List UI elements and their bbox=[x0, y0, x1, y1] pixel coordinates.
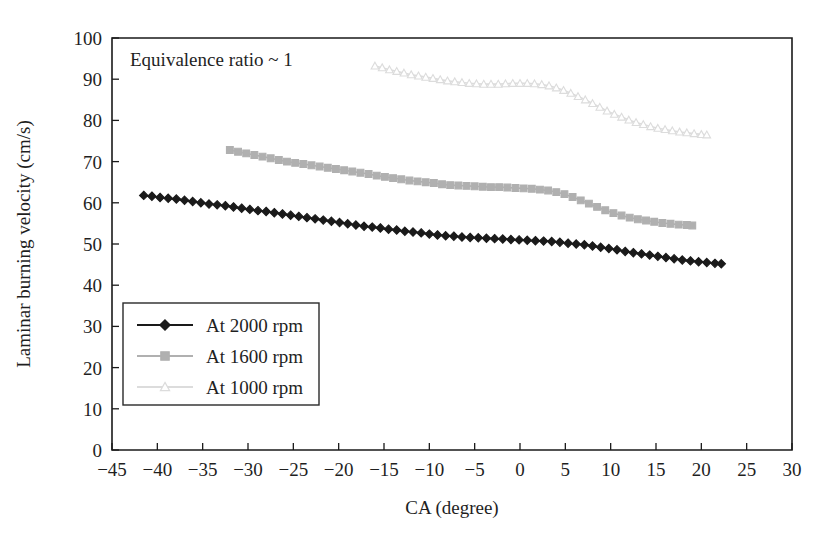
series-marker bbox=[300, 161, 307, 168]
series-marker bbox=[226, 147, 233, 154]
x-tick-label: 30 bbox=[783, 459, 802, 480]
series-marker bbox=[659, 220, 666, 227]
x-tick-label: −5 bbox=[465, 459, 485, 480]
y-tick-label: 0 bbox=[93, 440, 103, 461]
x-tick-label: 10 bbox=[601, 459, 620, 480]
series-marker bbox=[610, 210, 617, 217]
series-marker bbox=[553, 189, 560, 196]
series-marker bbox=[422, 179, 429, 186]
y-tick-label: 10 bbox=[83, 399, 102, 420]
series-marker bbox=[479, 183, 486, 190]
y-tick-label: 80 bbox=[83, 110, 102, 131]
x-tick-label: −25 bbox=[278, 459, 308, 480]
x-tick-label: −20 bbox=[324, 459, 354, 480]
legend-item-label: At 1000 rpm bbox=[206, 377, 303, 398]
equivalence-ratio-annotation: Equivalence ratio ~ 1 bbox=[130, 49, 293, 70]
y-tick-label: 40 bbox=[83, 275, 102, 296]
series-marker bbox=[349, 168, 356, 175]
series-marker bbox=[292, 159, 299, 166]
series-marker bbox=[488, 184, 495, 191]
series-marker bbox=[382, 173, 389, 180]
series-marker bbox=[586, 200, 593, 207]
series-marker bbox=[675, 221, 682, 228]
y-tick-label: 50 bbox=[83, 234, 102, 255]
y-tick-label: 30 bbox=[83, 316, 102, 337]
series-marker bbox=[643, 217, 650, 224]
chart-figure: −45−40−35−30−25−20−15−10−5051015202530 0… bbox=[0, 0, 840, 547]
series-marker bbox=[398, 176, 405, 183]
series-marker bbox=[651, 218, 658, 225]
x-tick-label: 0 bbox=[515, 459, 525, 480]
x-tick-label: −30 bbox=[233, 459, 263, 480]
y-tick-label: 100 bbox=[74, 28, 103, 49]
y-axis-title: Laminar burning velocity (cm/s) bbox=[13, 120, 35, 367]
x-tick-label: −35 bbox=[188, 459, 218, 480]
series-marker bbox=[512, 185, 519, 192]
series-marker bbox=[333, 166, 340, 173]
x-tick-label: −10 bbox=[414, 459, 444, 480]
x-tick-label: −45 bbox=[97, 459, 127, 480]
y-tick-label: 60 bbox=[83, 193, 102, 214]
series-marker bbox=[414, 178, 421, 185]
series-marker bbox=[545, 187, 552, 194]
series-marker bbox=[689, 222, 696, 229]
series-marker bbox=[365, 171, 372, 178]
series-marker bbox=[667, 220, 674, 227]
series-marker bbox=[626, 214, 633, 221]
series-marker bbox=[406, 177, 413, 184]
chart-canvas: −45−40−35−30−25−20−15−10−5051015202530 0… bbox=[0, 0, 840, 547]
series-marker bbox=[463, 183, 470, 190]
series-marker bbox=[618, 212, 625, 219]
series-marker bbox=[520, 185, 527, 192]
series-marker bbox=[471, 183, 478, 190]
x-tick-label: −40 bbox=[142, 459, 172, 480]
series-marker bbox=[577, 197, 584, 204]
series-marker bbox=[455, 182, 462, 189]
y-tick-label: 20 bbox=[83, 358, 102, 379]
series-marker bbox=[243, 150, 250, 157]
series-marker bbox=[267, 155, 274, 162]
series-marker bbox=[390, 175, 397, 182]
series-marker bbox=[308, 162, 315, 169]
x-axis-title: CA (degree) bbox=[405, 497, 498, 519]
series-marker bbox=[251, 152, 258, 159]
series-marker bbox=[235, 148, 242, 155]
x-tick-label: 20 bbox=[692, 459, 711, 480]
y-tick-label: 90 bbox=[83, 69, 102, 90]
legend-marker-swatch bbox=[161, 352, 169, 360]
chart-legend: At 2000 rpmAt 1600 rpmAt 1000 rpm bbox=[123, 303, 319, 405]
x-tick-label: −15 bbox=[369, 459, 399, 480]
x-tick-label: 15 bbox=[647, 459, 666, 480]
series-marker bbox=[528, 185, 535, 192]
series-marker bbox=[594, 204, 601, 211]
series-marker bbox=[430, 180, 437, 187]
series-marker bbox=[316, 163, 323, 170]
series-marker bbox=[634, 216, 641, 223]
series-marker bbox=[324, 164, 331, 171]
series-marker bbox=[447, 182, 454, 189]
series-marker bbox=[341, 167, 348, 174]
series-marker bbox=[496, 184, 503, 191]
series-marker bbox=[537, 186, 544, 193]
legend-item-label: At 1600 rpm bbox=[206, 346, 303, 367]
series-marker bbox=[504, 184, 511, 191]
legend-item-label: At 2000 rpm bbox=[206, 315, 303, 336]
series-marker bbox=[275, 157, 282, 164]
series-marker bbox=[357, 169, 364, 176]
series-marker bbox=[373, 172, 380, 179]
series-marker bbox=[284, 158, 291, 165]
series-marker bbox=[259, 153, 266, 160]
y-tick-label: 70 bbox=[83, 152, 102, 173]
series-marker bbox=[439, 181, 446, 188]
series-marker bbox=[602, 207, 609, 214]
x-tick-label: 5 bbox=[561, 459, 571, 480]
series-marker bbox=[561, 191, 568, 198]
x-tick-label: 25 bbox=[737, 459, 756, 480]
series-marker bbox=[569, 194, 576, 201]
